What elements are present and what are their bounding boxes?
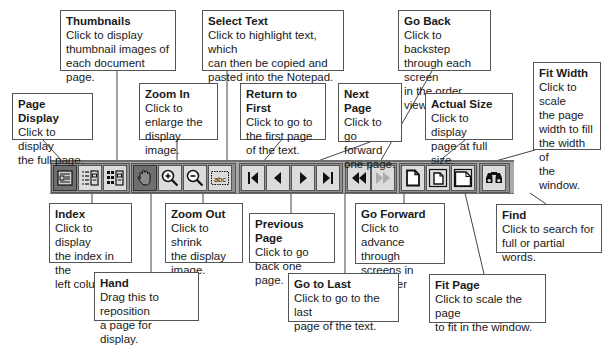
zoom-in-icon — [160, 168, 180, 188]
callout-title: Fit Page — [435, 278, 540, 292]
callout-title: Actual Size — [431, 97, 507, 111]
callout-desc: Click to scale the page width to fill th… — [539, 80, 595, 192]
callout-desc: Click to display page at full size. — [431, 111, 507, 167]
callout-title: Index — [55, 207, 126, 221]
callout-title: Zoom Out — [171, 207, 237, 221]
callout-find: Find Click to search for full or partial… — [496, 204, 602, 253]
callout-desc: Click to scale the page to fit in the wi… — [435, 292, 540, 334]
go-back-icon — [349, 168, 369, 188]
next-page-icon — [293, 168, 313, 188]
page-display-icon — [55, 168, 75, 188]
callout-title: Hand — [100, 276, 193, 290]
binoculars-icon — [484, 168, 504, 188]
callout-title: Page Display — [18, 97, 87, 125]
callout-title: Return to First — [246, 87, 320, 115]
callout-title: Go to Last — [294, 277, 393, 291]
callout-go-back: Go Back Click to backstep through each s… — [398, 10, 491, 71]
previous-page-button[interactable] — [266, 165, 290, 191]
callout-title: Next Page — [344, 87, 396, 115]
fit-page-button[interactable] — [426, 165, 450, 191]
callout-desc: Click to display thumbnail images of eac… — [66, 28, 170, 84]
fit-width-button[interactable] — [451, 165, 475, 191]
select-text-abc-icon: abc — [210, 168, 230, 188]
callout-desc: Click to enlarge the display image. — [145, 101, 212, 157]
callout-desc: Click to shrink the display image. — [171, 221, 237, 277]
previous-page-icon — [268, 168, 288, 188]
callout-previous-page: Previous Page Click to go back one page. — [249, 213, 335, 263]
thumbnails-button[interactable] — [103, 165, 127, 191]
callout-title: Previous Page — [255, 217, 329, 245]
callout-go-forward: Go Forward Click to advance through scre… — [355, 203, 445, 264]
callout-title: Go Forward — [361, 207, 439, 221]
callout-fit-page: Fit Page Click to scale the page to fit … — [429, 274, 546, 323]
callout-desc: Click to go to the last page of the text… — [294, 291, 393, 333]
callout-title: Zoom In — [145, 87, 212, 101]
index-button[interactable] — [78, 165, 102, 191]
select-text-button[interactable]: abc — [208, 165, 232, 191]
callout-next-page: Next Page Click to go forward one page. — [338, 83, 402, 142]
zoom-in-button[interactable] — [158, 165, 182, 191]
callout-return-to-first: Return to First Click to go to the first… — [240, 83, 326, 140]
callout-desc: Click to highlight text, which can then … — [208, 28, 338, 84]
callout-page-display: Page Display Click to display the full p… — [12, 93, 93, 140]
index-list-icon — [80, 168, 100, 188]
callout-index: Index Click to display the index in the … — [49, 203, 132, 263]
callout-select-text: Select Text Click to highlight text, whi… — [202, 10, 344, 71]
thumbnails-grid-icon — [105, 168, 125, 188]
last-page-icon — [318, 168, 338, 188]
go-forward-icon — [373, 168, 393, 188]
callout-fit-width: Fit Width Click to scale the page width … — [533, 62, 601, 150]
fit-page-icon — [428, 168, 448, 188]
fit-width-icon — [453, 168, 473, 188]
hand-icon — [135, 168, 155, 188]
callout-desc: Click to go forward one page. — [344, 115, 396, 171]
hand-button[interactable] — [133, 165, 157, 191]
callout-desc: Click to display the full page. — [18, 125, 87, 167]
page-display-button[interactable] — [53, 165, 77, 191]
callout-zoom-out: Zoom Out Click to shrink the display ima… — [165, 203, 243, 263]
callout-thumbnails: Thumbnails Click to display thumbnail im… — [60, 10, 176, 71]
callout-title: Fit Width — [539, 66, 595, 80]
callout-desc: Click to go to the first page of the tex… — [246, 115, 320, 157]
next-page-button[interactable] — [291, 165, 315, 191]
callout-title: Select Text — [208, 14, 338, 28]
callout-title: Thumbnails — [66, 14, 170, 28]
return-to-first-button[interactable] — [241, 165, 265, 191]
callout-title: Find — [502, 208, 596, 222]
callout-go-to-last: Go to Last Click to go to the last page … — [288, 273, 399, 322]
callout-desc: Click to search for full or partial word… — [502, 222, 596, 264]
actual-size-button[interactable] — [401, 165, 425, 191]
find-button[interactable] — [482, 165, 506, 191]
actual-size-page-icon — [403, 168, 423, 188]
zoom-out-button[interactable] — [183, 165, 207, 191]
callout-hand: Hand Drag this to reposition a page for … — [94, 272, 199, 321]
go-to-last-button[interactable] — [316, 165, 340, 191]
zoom-out-icon — [185, 168, 205, 188]
callout-actual-size: Actual Size Click to display page at ful… — [425, 93, 513, 140]
first-page-icon — [243, 168, 263, 188]
svg-text:abc: abc — [214, 175, 226, 184]
callout-desc: Drag this to reposition a page for displ… — [100, 290, 193, 346]
callout-zoom-in: Zoom In Click to enlarge the display ima… — [139, 83, 218, 140]
callout-title: Go Back — [404, 14, 485, 28]
